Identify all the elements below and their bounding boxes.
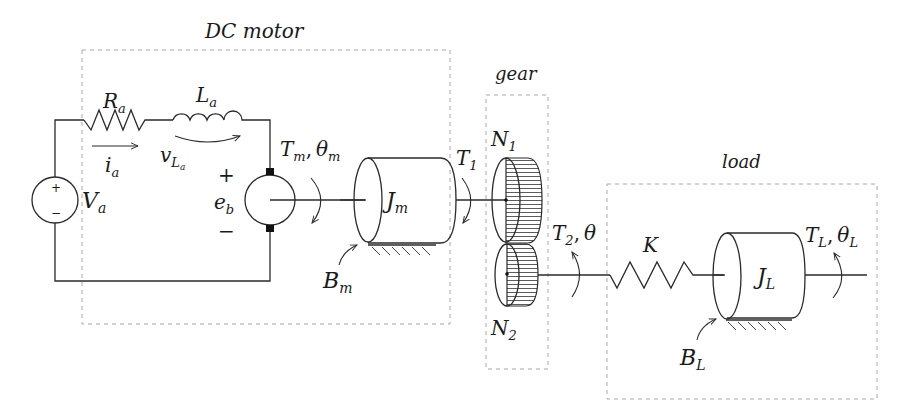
armature-circuit: + − xyxy=(32,110,270,281)
jm-ground-hatch xyxy=(372,247,430,255)
gear1-teeth xyxy=(506,158,542,243)
torsional-spring-k xyxy=(610,262,724,288)
spring-label: K xyxy=(642,233,659,257)
back-emf-label: eb xyxy=(214,190,234,217)
source-label: Va xyxy=(82,188,106,216)
motor-inertia-label: Jm xyxy=(382,188,408,216)
source-minus-sign: − xyxy=(51,206,61,220)
gear2-teeth xyxy=(507,244,538,306)
load-torque-angle-label: TL,θL xyxy=(805,223,858,250)
load-group-box xyxy=(607,184,877,399)
motor-friction-label: Bm xyxy=(322,268,352,296)
load-friction-label: BL xyxy=(679,345,705,373)
wire-bottom xyxy=(55,223,270,281)
inductor-voltage-arrow xyxy=(175,136,240,142)
load-inertia-label: JL xyxy=(753,264,775,292)
load-title: load xyxy=(722,151,761,172)
current-label: ia xyxy=(105,153,119,180)
gear1-label: N1 xyxy=(490,127,517,154)
source-plus-sign: + xyxy=(51,181,61,195)
jm-body xyxy=(368,158,456,243)
load-inertia-cylinder xyxy=(713,233,867,330)
gear-title: gear xyxy=(495,63,538,84)
resistor-ra xyxy=(84,110,173,130)
jl-front-face xyxy=(713,233,741,319)
gear1-axle xyxy=(504,198,508,202)
gear2-label: N2 xyxy=(490,316,517,343)
motor-friction-arrow xyxy=(339,245,357,265)
back-emf-minus-sign: − xyxy=(218,219,235,243)
resistor-label: Ra xyxy=(102,89,126,116)
motor-torque-angle-label: Tm,θm xyxy=(280,137,340,164)
gear2-axle xyxy=(505,272,509,276)
gear-output-torque-angle-label: T2,θ xyxy=(552,221,596,248)
dc-motor-title: DC motor xyxy=(204,19,305,43)
motor-brush-top xyxy=(266,168,274,175)
dc-motor-gear-load-diagram: DC motor gear load + − Ra La ia vLa Va +… xyxy=(0,0,905,418)
inductor-label: La xyxy=(195,83,217,110)
load-friction-arrow xyxy=(697,319,716,340)
dc-motor-group-box xyxy=(82,50,450,324)
gear-2 xyxy=(495,244,538,306)
jl-ground-hatch xyxy=(728,322,786,330)
back-emf-plus-sign: + xyxy=(218,163,235,187)
motor-brush-bottom xyxy=(266,225,274,232)
inductor-voltage-label: vLa xyxy=(160,143,185,172)
gear-input-torque-label: T1 xyxy=(456,146,478,173)
wire-left-top xyxy=(55,120,84,177)
